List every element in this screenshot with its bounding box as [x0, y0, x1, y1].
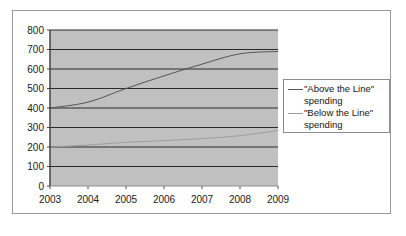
svg-text:100: 100 — [27, 161, 44, 172]
svg-text:2007: 2007 — [191, 194, 214, 205]
y-axis-tick-labels: 0100200300400500600700800 — [27, 25, 44, 192]
svg-text:2004: 2004 — [77, 194, 100, 205]
svg-text:200: 200 — [27, 142, 44, 153]
svg-text:400: 400 — [27, 103, 44, 114]
x-axis-tick-labels: 2003200420052006200720082009 — [39, 194, 290, 205]
svg-text:700: 700 — [27, 44, 44, 55]
svg-text:300: 300 — [27, 122, 44, 133]
svg-text:500: 500 — [27, 83, 44, 94]
legend-item-above-the-line[interactable]: "Above the Line" spending — [287, 83, 387, 106]
legend-item-label: "Below the Line" spending — [304, 107, 373, 130]
legend-line-swatch-icon — [287, 108, 304, 119]
svg-text:800: 800 — [27, 25, 44, 36]
svg-text:2008: 2008 — [229, 194, 252, 205]
legend-line-swatch-icon — [287, 84, 304, 95]
svg-text:0: 0 — [38, 181, 44, 192]
svg-text:2005: 2005 — [115, 194, 138, 205]
svg-text:600: 600 — [27, 64, 44, 75]
chart-card: 0100200300400500600700800 20032004200520… — [12, 10, 391, 214]
legend-item-below-the-line[interactable]: "Below the Line" spending — [287, 107, 387, 130]
chart-legend: "Above the Line" spending "Below the Lin… — [283, 79, 390, 133]
svg-text:2006: 2006 — [153, 194, 176, 205]
svg-text:2003: 2003 — [39, 194, 62, 205]
svg-text:2009: 2009 — [267, 194, 290, 205]
legend-item-label: "Above the Line" spending — [304, 83, 374, 106]
